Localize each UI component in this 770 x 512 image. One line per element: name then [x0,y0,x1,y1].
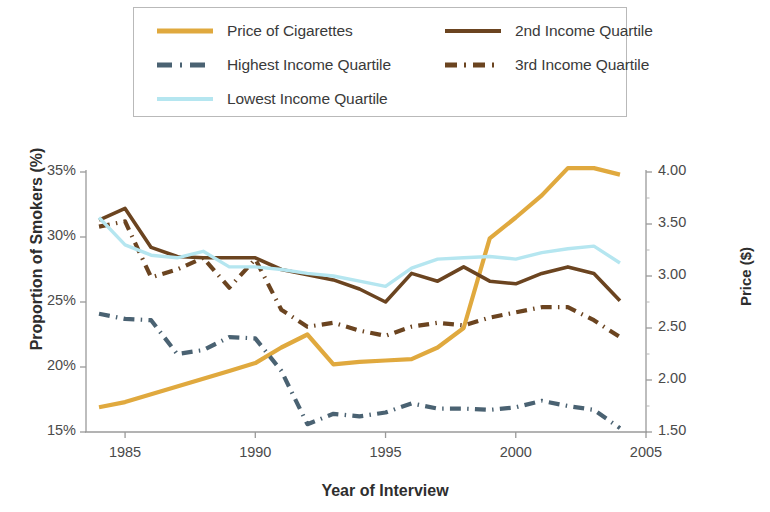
smoking-price-line-chart: Price of Cigarettes 2nd Income Quartile … [0,0,770,512]
series-line-lowest-income-quartile [99,218,620,287]
plot-area [0,0,770,512]
series-line-highest-income-quartile [99,314,620,428]
series-line-3rd-income-quartile [99,221,620,337]
series-line-2nd-income-quartile [99,208,620,302]
